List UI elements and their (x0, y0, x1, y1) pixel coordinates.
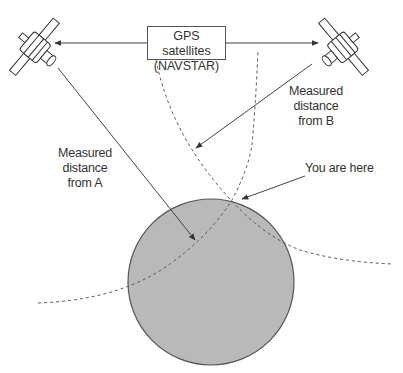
satellite-b-icon (303, 9, 380, 89)
label-you-are-here: You are here (305, 161, 375, 176)
box-line-2: (NAVSTAR) (148, 59, 225, 74)
you-are-here-pointer (242, 176, 305, 199)
label-distance-b: Measured distance from B (285, 84, 347, 129)
box-line-1: GPS satellites (148, 29, 225, 59)
range-arc-b-upper (252, 50, 258, 145)
earth-circle (128, 199, 294, 365)
label-distance-a: Measured distance from A (54, 146, 116, 191)
gps-satellites-label-box: GPS satellites (NAVSTAR) (147, 26, 226, 60)
satellite-a-icon (0, 9, 75, 89)
